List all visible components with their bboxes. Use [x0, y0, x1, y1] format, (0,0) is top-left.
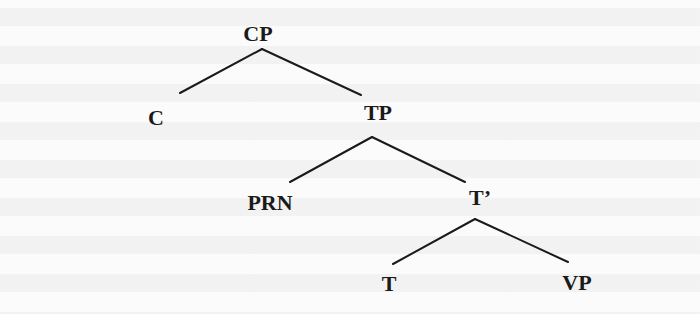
edge-tp-tbar: [372, 137, 465, 182]
syntax-tree-figure: CP C TP PRN T’ T VP: [0, 0, 700, 314]
tree-edges: [0, 0, 700, 314]
edge-cp-tp: [262, 49, 361, 95]
node-c: C: [148, 107, 164, 129]
node-tp: TP: [364, 102, 392, 124]
edge-tbar-t: [393, 219, 475, 264]
node-prn: PRN: [247, 192, 292, 214]
node-vp: VP: [562, 272, 591, 294]
node-t: T: [382, 273, 397, 295]
edge-cp-c: [180, 49, 262, 93]
node-cp: CP: [243, 23, 272, 45]
edge-tbar-vp: [475, 219, 568, 262]
edge-tp-prn: [290, 137, 372, 182]
node-t-bar: T’: [469, 187, 491, 209]
